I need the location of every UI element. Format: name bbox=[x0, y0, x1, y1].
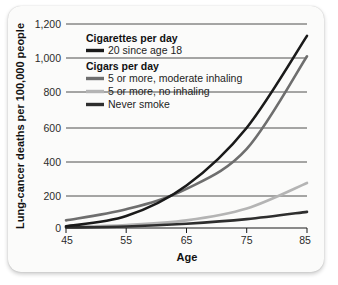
xtick-label-65: 65 bbox=[181, 234, 193, 246]
chart-legend: Cigarettes per day 20 since age 18 Cigar… bbox=[86, 32, 242, 110]
ytick-label-200: 200 bbox=[43, 190, 61, 202]
x-axis-tickmarks bbox=[66, 228, 307, 233]
ytick-label-600: 600 bbox=[43, 122, 61, 134]
xtick-label-75: 75 bbox=[241, 234, 253, 246]
legend-label-moderate-inhaling: 5 or more, moderate inhaling bbox=[108, 72, 242, 84]
y-axis-title: Lung-cancer deaths per 100,000 people bbox=[14, 23, 26, 229]
y-axis-ticks: 1,200 1,000 800 600 400 200 0 bbox=[35, 18, 61, 234]
ytick-label-0: 0 bbox=[55, 222, 61, 234]
x-axis-title: Age bbox=[177, 251, 198, 263]
xtick-label-85: 85 bbox=[299, 234, 311, 246]
legend-heading-cigarettes: Cigarettes per day bbox=[86, 32, 178, 44]
ytick-label-800: 800 bbox=[43, 86, 61, 98]
x-axis-ticks: 45 55 65 75 85 bbox=[61, 234, 311, 246]
xtick-label-55: 55 bbox=[120, 234, 132, 246]
ytick-label-1200: 1,200 bbox=[35, 18, 61, 30]
xtick-label-45: 45 bbox=[61, 234, 73, 246]
legend-label-no-inhaling: 5 or more, no inhaling bbox=[108, 85, 210, 97]
legend-heading-cigars: Cigars per day bbox=[86, 60, 159, 72]
legend-label-never-smoke: Never smoke bbox=[108, 98, 170, 110]
ytick-label-400: 400 bbox=[43, 156, 61, 168]
ytick-label-1000: 1,000 bbox=[35, 52, 61, 64]
lung-cancer-deaths-line-chart: Lung-cancer deaths per 100,000 people 1,… bbox=[0, 0, 338, 285]
legend-label-cigarettes: 20 since age 18 bbox=[108, 44, 182, 56]
